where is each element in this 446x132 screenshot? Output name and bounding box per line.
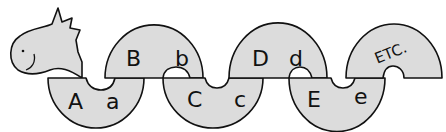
snake-drawing: A a B b C c D d E e ETC. <box>0 0 446 132</box>
letter-d: d <box>289 46 303 71</box>
letter-E: E <box>307 87 321 112</box>
dragon-head <box>11 8 82 78</box>
segment-D-d <box>229 23 327 78</box>
letter-b: b <box>175 46 189 71</box>
segment-A-a <box>48 78 144 128</box>
letter-a: a <box>106 89 119 114</box>
dragon-eye <box>22 50 25 53</box>
letter-e: e <box>354 84 368 109</box>
letter-D: D <box>252 46 269 71</box>
letter-A: A <box>68 89 83 114</box>
alphabet-snake-illustration: A a B b C c D d E e ETC. <box>0 0 446 132</box>
letter-B: B <box>126 46 141 71</box>
letter-c: c <box>234 87 246 112</box>
letter-C: C <box>187 87 202 112</box>
segment-C-c <box>163 78 263 128</box>
segment-E-e <box>289 78 385 132</box>
